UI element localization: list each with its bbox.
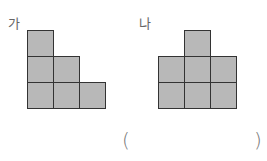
square-cell — [27, 56, 54, 83]
square-cell — [79, 82, 106, 109]
square-cell — [184, 56, 211, 83]
open-paren: ( — [122, 130, 130, 150]
square-cell — [27, 82, 54, 109]
square-cell — [158, 56, 185, 83]
square-cell — [184, 30, 211, 57]
square-cell — [210, 56, 237, 83]
square-cell — [158, 82, 185, 109]
square-cell — [27, 30, 54, 57]
square-cell — [53, 82, 80, 109]
figure-label-ga: 가 — [8, 17, 20, 30]
square-cell — [210, 82, 237, 109]
close-paren: ) — [254, 130, 262, 150]
square-cell — [184, 82, 211, 109]
figure-label-na: 나 — [139, 17, 151, 30]
square-cell — [53, 56, 80, 83]
